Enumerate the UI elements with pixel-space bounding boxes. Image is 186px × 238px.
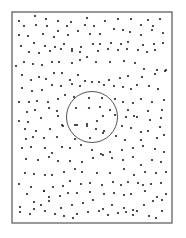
dot [57,98,59,100]
dot [142,44,144,46]
dot [165,193,167,195]
dot [122,86,124,88]
dot [61,146,63,148]
dot [132,102,134,104]
dot [41,89,43,91]
dot [56,136,58,138]
dot [44,147,46,149]
dot [69,147,71,149]
dot [63,215,65,217]
dot [147,19,149,21]
dot [80,183,82,185]
dot [123,207,125,209]
dot [92,157,94,159]
dot [146,51,148,53]
dot [35,130,37,132]
dot [109,61,111,63]
dot [86,125,88,127]
dot [27,35,29,37]
dot [18,20,20,22]
dot [29,213,31,215]
dot [123,60,125,62]
highlight-circle [67,92,118,143]
dot [111,204,113,206]
dot [154,49,156,51]
dot [125,116,127,118]
dot [23,61,25,63]
dot [40,117,42,119]
dot [35,24,37,26]
dot [88,97,90,99]
dot [95,128,97,130]
dot [120,184,122,186]
dot [71,83,73,85]
dot [140,24,142,26]
dot [49,50,51,52]
dot [152,200,154,202]
dot [76,213,78,215]
dot [45,18,47,20]
dot [123,168,125,170]
dot [160,182,162,184]
dot [122,101,124,103]
dot [76,124,78,126]
dot [151,29,153,31]
dot [100,153,102,155]
dot [79,59,81,61]
dot [51,84,53,86]
dot [20,45,22,47]
dot [110,42,112,44]
dot [59,195,61,197]
dot [43,137,45,139]
dot [120,43,122,45]
dot [63,43,65,45]
dot [132,156,134,158]
dot [44,174,46,176]
dot [79,51,81,53]
dot [18,101,20,103]
dot [71,204,73,206]
dot [33,173,35,175]
dot [142,184,144,186]
dot [133,174,135,176]
dot [123,194,125,196]
dot [38,52,40,54]
dot [107,214,109,216]
dot [80,144,82,146]
dot [53,72,55,74]
dot [67,192,69,194]
dot [84,80,86,82]
dot [60,48,62,50]
dot [162,42,164,44]
dot [82,202,84,204]
dot [98,210,100,212]
dot [21,147,23,149]
dot [144,190,146,192]
dot [143,68,145,70]
dot [51,152,53,154]
dot [109,109,111,111]
dot [127,109,129,111]
dot [34,109,36,111]
dot [140,98,142,100]
dot [52,186,54,188]
dot [56,110,58,112]
dot [41,64,43,66]
dot [156,196,158,198]
dot [154,148,156,150]
dot [150,183,152,185]
dot [91,149,93,151]
dot [134,62,136,64]
dot [161,210,163,212]
dot [60,207,62,209]
dot [151,101,153,103]
dot [99,106,101,108]
dot [87,211,89,213]
dot [97,50,99,52]
dot [25,138,27,140]
dot [130,193,132,195]
dot [27,121,29,123]
dot [64,94,66,96]
dot [48,200,50,202]
dot [161,199,163,201]
